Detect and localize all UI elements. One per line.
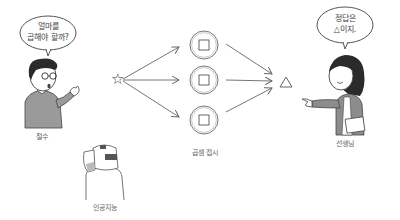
plate-3 bbox=[190, 106, 218, 134]
teacher-speech-line-2: △이지. bbox=[317, 24, 373, 35]
input-arrows bbox=[123, 47, 179, 117]
student-speech-line-1: 얼마를 bbox=[20, 21, 76, 32]
plate-2 bbox=[190, 66, 218, 94]
multiplication-plates bbox=[190, 31, 218, 134]
plate-1 bbox=[190, 31, 218, 59]
teacher-figure bbox=[302, 55, 365, 135]
plates-label: 곱셈 접시 bbox=[180, 147, 230, 157]
ai-name-label: 인공지능 bbox=[80, 202, 130, 212]
teacher-speech-line-1: 정답은 bbox=[317, 13, 373, 24]
star-icon: ☆ bbox=[111, 70, 124, 88]
student-name-label: 철수 bbox=[24, 131, 60, 141]
student-figure bbox=[25, 59, 79, 128]
output-arrows bbox=[226, 44, 272, 112]
student-speech-text: 얼마를 곱해야 할까? bbox=[20, 21, 76, 43]
triangle-icon bbox=[280, 77, 292, 87]
teacher-name-label: 선생님 bbox=[320, 138, 370, 148]
teacher-speech-text: 정답은 △이지. bbox=[317, 13, 373, 35]
ai-robot-figure bbox=[84, 145, 125, 200]
student-speech-line-2: 곱해야 할까? bbox=[20, 32, 76, 43]
